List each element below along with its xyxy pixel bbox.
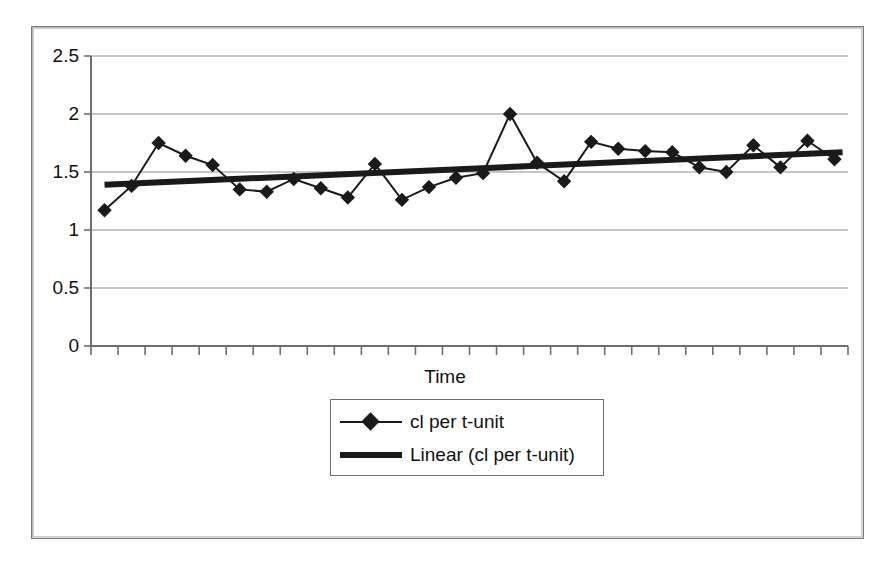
legend-swatch-thick-line-icon <box>340 445 402 465</box>
legend-item-cl-per-t-unit: cl per t-unit <box>331 405 603 438</box>
data-point-marker <box>584 135 598 149</box>
legend-swatch-line-diamond-icon <box>340 412 402 432</box>
data-point-marker <box>260 185 274 199</box>
chart-legend: cl per t-unit Linear (cl per t-unit) <box>330 399 604 476</box>
data-point-marker <box>314 181 328 195</box>
data-point-marker <box>503 107 517 121</box>
legend-label-cl-per-t-unit: cl per t-unit <box>410 412 504 431</box>
y-axis-tick-label: 2.5 <box>53 46 79 65</box>
data-point-marker <box>178 149 192 163</box>
data-point-marker <box>422 180 436 194</box>
gridlines <box>91 56 848 346</box>
y-axis-tick-label: 0 <box>68 336 79 355</box>
series-markers-cl-per-t-unit <box>97 107 841 218</box>
y-axis-tick-label: 0.5 <box>53 278 79 297</box>
y-axis-tick-label: 2 <box>68 104 79 123</box>
data-point-marker <box>151 136 165 150</box>
data-point-marker <box>557 174 571 188</box>
data-point-marker <box>638 144 652 158</box>
data-point-marker <box>449 171 463 185</box>
y-axis-tick-label: 1.5 <box>53 162 79 181</box>
chart-plot-area <box>0 0 890 567</box>
x-axis-title: Time <box>0 367 890 386</box>
legend-item-linear-trend: Linear (cl per t-unit) <box>331 438 603 471</box>
y-axis-ticks <box>84 56 91 346</box>
legend-label-linear-trend: Linear (cl per t-unit) <box>410 445 575 464</box>
y-axis-tick-label: 1 <box>68 220 79 239</box>
x-axis-ticks <box>91 346 848 355</box>
data-point-marker <box>611 142 625 156</box>
